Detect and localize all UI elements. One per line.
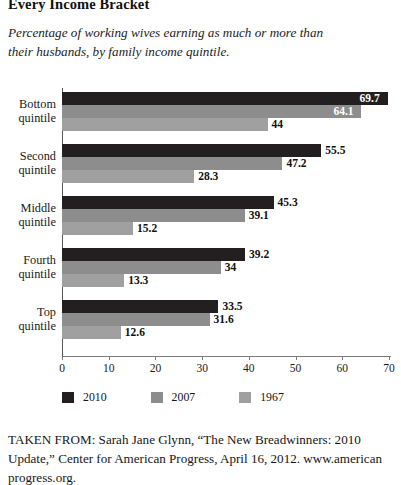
bar-value-label: 13.3 — [128, 274, 148, 287]
legend-label: 1967 — [260, 392, 284, 403]
x-tick-label: 40 — [243, 362, 255, 374]
bar-value-label: 31.6 — [214, 313, 234, 326]
x-tick — [389, 356, 390, 360]
legend-swatch-icon — [151, 392, 163, 403]
bar-value-label: 55.5 — [325, 144, 345, 157]
x-tick — [109, 356, 110, 360]
category-label-middle: Middlequintile — [0, 201, 56, 230]
bar-value-label: 47.2 — [286, 157, 306, 170]
bar-2007-middle[interactable] — [62, 209, 245, 222]
bar-1967-middle[interactable] — [62, 222, 133, 235]
x-tick — [249, 356, 250, 360]
legend-item-1967[interactable]: 1967 — [239, 392, 284, 403]
bar-1967-top[interactable] — [62, 326, 121, 339]
x-tick — [342, 356, 343, 360]
legend-label: 2007 — [172, 392, 196, 403]
x-tick-label: 70 — [383, 362, 395, 374]
bar-value-label: 64.1 — [333, 105, 353, 118]
legend-swatch-icon — [62, 392, 74, 403]
x-tick-label: 10 — [103, 362, 115, 374]
category-label-line: Middle — [0, 201, 56, 215]
x-tick-label: 50 — [290, 362, 302, 374]
bar-2007-second[interactable] — [62, 157, 282, 170]
source-note: TAKEN FROM: Sarah Jane Glynn, “The New B… — [8, 430, 392, 485]
category-label-fourth: Fourthquintile — [0, 253, 56, 282]
category-label-line: Second — [0, 149, 56, 163]
x-tick — [62, 356, 63, 360]
x-tick-label: 20 — [150, 362, 162, 374]
category-label-line: Bottom — [0, 97, 56, 111]
x-tick-label: 30 — [196, 362, 208, 374]
bar-2010-top[interactable] — [62, 300, 218, 313]
bar-2010-second[interactable] — [62, 144, 321, 157]
bar-2010-fourth[interactable] — [62, 248, 245, 261]
bar-2010-bottom[interactable] — [62, 92, 388, 105]
bar-1967-bottom[interactable] — [62, 118, 268, 131]
category-label-line: quintile — [0, 111, 56, 125]
bar-2010-middle[interactable] — [62, 196, 274, 209]
x-tick — [202, 356, 203, 360]
legend-item-2007[interactable]: 2007 — [151, 392, 196, 403]
bar-value-label: 69.7 — [360, 92, 380, 105]
category-label-bottom: Bottomquintile — [0, 97, 56, 126]
bar-value-label: 28.3 — [198, 170, 218, 183]
legend-item-2010[interactable]: 2010 — [62, 392, 107, 403]
legend-swatch-icon — [239, 392, 251, 403]
bar-1967-fourth[interactable] — [62, 274, 124, 287]
chart-subtitle: Percentage of working wives earning as m… — [8, 24, 348, 61]
category-label-line: quintile — [0, 215, 56, 229]
category-label-line: Top — [0, 305, 56, 319]
chart-plot-area: BottomquintileSecondquintileMiddlequinti… — [0, 88, 401, 388]
category-label-top: Topquintile — [0, 305, 56, 334]
x-tick-label: 0 — [59, 362, 65, 374]
category-label-line: quintile — [0, 267, 56, 281]
bar-2007-bottom[interactable] — [62, 105, 361, 118]
bar-value-label: 15.2 — [137, 222, 157, 235]
bar-value-label: 33.5 — [222, 300, 242, 313]
bar-1967-second[interactable] — [62, 170, 194, 183]
x-tick-label: 60 — [337, 362, 349, 374]
bar-value-label: 12.6 — [125, 326, 145, 339]
legend-label: 2010 — [83, 392, 107, 403]
x-tick — [296, 356, 297, 360]
bar-value-label: 45.3 — [278, 196, 298, 209]
x-tick — [155, 356, 156, 360]
page-title: Every Income Bracket — [6, 0, 395, 12]
category-label-second: Secondquintile — [0, 149, 56, 178]
category-label-line: Fourth — [0, 253, 56, 267]
bar-2007-top[interactable] — [62, 313, 210, 326]
category-label-line: quintile — [0, 319, 56, 333]
chart-page: Every Income Bracket Percentage of worki… — [0, 0, 401, 485]
category-label-line: quintile — [0, 163, 56, 177]
bar-value-label: 44 — [272, 118, 284, 131]
bar-value-label: 39.1 — [249, 209, 269, 222]
bar-value-label: 34 — [225, 261, 237, 274]
chart-legend: 201020071967 — [62, 392, 328, 403]
bar-value-label: 39.2 — [249, 248, 269, 261]
bar-2007-fourth[interactable] — [62, 261, 221, 274]
